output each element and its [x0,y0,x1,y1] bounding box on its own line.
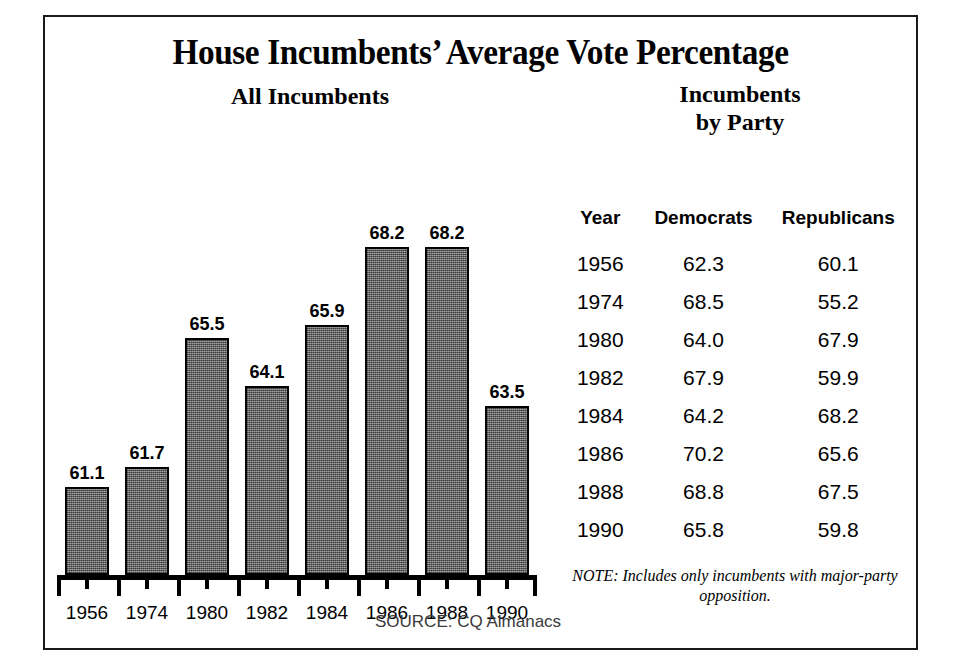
cell-year: 1956 [560,245,641,283]
x-axis-tick-major [297,579,301,596]
cell-democrats: 64.0 [641,321,767,359]
bar-1980 [185,338,229,575]
bar-value-label-1990: 63.5 [477,382,537,403]
cell-republicans: 60.1 [767,245,911,283]
cell-democrats: 68.5 [641,283,767,321]
incumbents-by-party-table: Year Democrats Republicans 195662.360.11… [560,207,910,549]
cell-year: 1988 [560,473,641,511]
column-header-democrats: Democrats [641,207,767,245]
source-note: SOURCE: CQ Almanacs [375,612,561,632]
bar-1956 [65,487,109,575]
x-axis-tick-minor [385,579,389,589]
cell-democrats: 62.3 [641,245,767,283]
column-header-year: Year [560,207,641,245]
cell-year: 1984 [560,397,641,435]
cell-democrats: 70.2 [641,435,767,473]
table-row: 198868.867.5 [560,473,910,511]
table-row: 197468.555.2 [560,283,910,321]
cell-year: 1980 [560,321,641,359]
x-axis-tick-major [117,579,121,596]
x-axis-label-1982: 1982 [246,602,288,624]
table-row: 198464.268.2 [560,397,910,435]
cell-democrats: 65.8 [641,511,767,549]
cell-republicans: 55.2 [767,283,911,321]
page-title: House Incumbents’ Average Vote Percentag… [67,33,894,73]
x-axis-tick-major [477,579,481,596]
table-note: NOTE: Includes only incumbents with majo… [565,566,905,606]
cell-republicans: 59.9 [767,359,911,397]
x-axis-tick-minor [205,579,209,589]
bar-1986 [365,247,409,575]
bar-value-label-1988: 68.2 [417,223,477,244]
x-axis-tick-minor [85,579,89,589]
bar-1990 [485,406,529,575]
table-row: 198064.067.9 [560,321,910,359]
x-axis-label-1956: 1956 [66,602,108,624]
column-header-republicans: Republicans [767,207,911,245]
cell-republicans: 59.8 [767,511,911,549]
bar-1984 [305,325,349,575]
cell-republicans: 67.9 [767,321,911,359]
party-table-heading-line2: by Party [575,108,905,136]
bar-value-label-1974: 61.7 [117,443,177,464]
x-axis-tick-major [417,579,421,596]
x-axis-tick-minor [145,579,149,589]
cell-year: 1986 [560,435,641,473]
cell-year: 1974 [560,283,641,321]
x-axis-tick-minor [265,579,269,589]
x-axis-tick-minor [325,579,329,589]
x-axis-tick-major [357,579,361,596]
x-axis-tick-major [57,579,61,596]
bar-value-label-1986: 68.2 [357,223,417,244]
cell-year: 1982 [560,359,641,397]
x-axis-tick-minor [445,579,449,589]
table-row: 198267.959.9 [560,359,910,397]
bar-value-label-1956: 61.1 [57,463,117,484]
bar-1974 [125,467,169,575]
bar-value-label-1982: 64.1 [237,362,297,383]
cell-democrats: 64.2 [641,397,767,435]
x-axis-tick-major [533,579,537,596]
bar-1988 [425,247,469,575]
bar-value-label-1984: 65.9 [297,301,357,322]
bar-chart-plot-area: 61.161.765.564.165.968.268.263.5 [57,147,547,579]
x-axis-tick-major [177,579,181,596]
table-row: 199065.859.8 [560,511,910,549]
x-axis-tick-major [237,579,241,596]
cell-republicans: 67.5 [767,473,911,511]
cell-republicans: 68.2 [767,397,911,435]
table-row: 195662.360.1 [560,245,910,283]
cell-republicans: 65.6 [767,435,911,473]
bar-1982 [245,386,289,575]
x-axis-label-1974: 1974 [126,602,168,624]
x-axis-label-1984: 1984 [306,602,348,624]
bar-chart: 61.161.765.564.165.968.268.263.5 1956197… [57,147,547,617]
left-chart-subtitle: All Incumbents [145,83,475,110]
party-table-heading: Incumbents by Party [575,80,905,136]
chart-figure-frame: House Incumbents’ Average Vote Percentag… [43,15,918,650]
table-row: 198670.265.6 [560,435,910,473]
party-table-heading-line1: Incumbents [575,80,905,108]
cell-democrats: 68.8 [641,473,767,511]
cell-democrats: 67.9 [641,359,767,397]
x-axis-tick-minor [505,579,509,589]
x-axis-label-1980: 1980 [186,602,228,624]
cell-year: 1990 [560,511,641,549]
bar-value-label-1980: 65.5 [177,314,237,335]
table-header-row: Year Democrats Republicans [560,207,910,245]
table-note-line1: NOTE: Includes only incumbents with [572,567,816,584]
